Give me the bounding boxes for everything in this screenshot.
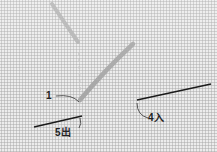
leader-line-1 <box>56 96 79 102</box>
diagonal-stitch-thread <box>80 44 133 100</box>
label-point-5-out: 5出 <box>55 128 71 138</box>
leader-line-5 <box>79 118 81 128</box>
label-point-1: 1 <box>46 91 52 101</box>
label-point-4-in: 4入 <box>148 113 164 123</box>
stitch-illustration <box>0 0 217 152</box>
embroidery-photo: 1 5出 4入 <box>0 0 217 152</box>
needle-right <box>137 84 211 100</box>
leader-line-4 <box>137 103 148 118</box>
back-thread-line <box>79 52 80 95</box>
upper-thread <box>52 4 78 42</box>
needle-left <box>34 116 82 127</box>
